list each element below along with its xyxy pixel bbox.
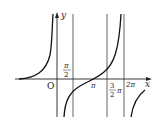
tick-pi: π bbox=[90, 82, 96, 90]
x-axis-label: x bbox=[145, 79, 150, 89]
tick-pi-over-2-numerator: π bbox=[63, 62, 69, 70]
tick-2pi: 2π bbox=[125, 81, 135, 89]
y-axis-arrow-icon bbox=[55, 12, 59, 18]
function-graph: y x O π 2 π 3 2 π 2π bbox=[0, 0, 158, 122]
y-axis-label: y bbox=[60, 10, 67, 20]
curve-branch-middle bbox=[64, 14, 121, 117]
tick-3pi-over-2-denominator: 2 bbox=[110, 91, 114, 99]
curve-branch-right bbox=[131, 90, 145, 117]
curve-branch-left bbox=[19, 14, 53, 79]
tick-3pi-over-2-numerator: 3 bbox=[110, 82, 114, 90]
origin-label: O bbox=[47, 81, 54, 91]
tick-pi-over-2-denominator: 2 bbox=[64, 71, 68, 79]
tick-3pi-over-2-pi: π bbox=[116, 87, 122, 95]
